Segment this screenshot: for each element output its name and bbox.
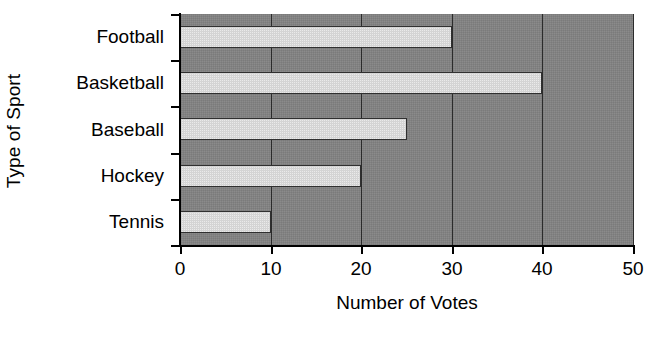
x-axis-tick-labels: 01020304050 xyxy=(0,258,646,284)
x-axis-tick xyxy=(271,245,273,254)
x-axis-tick-label: 40 xyxy=(531,258,552,280)
y-axis-line xyxy=(179,13,181,246)
x-axis-tick xyxy=(361,245,363,254)
y-axis-tick xyxy=(171,153,180,155)
y-axis-tick xyxy=(171,199,180,201)
y-axis-tick-label: Football xyxy=(30,14,172,60)
x-axis-line xyxy=(180,245,634,247)
bar-band xyxy=(180,153,633,199)
x-axis-tick xyxy=(542,245,544,254)
bar[interactable] xyxy=(180,26,452,48)
x-axis-tick-label: 10 xyxy=(260,258,281,280)
y-axis-tick xyxy=(171,106,180,108)
y-axis-tick xyxy=(171,14,180,16)
bars xyxy=(180,14,633,245)
y-axis-tick-label: Hockey xyxy=(30,153,172,199)
y-axis-tick-labels: Football Basketball Baseball Hockey Tenn… xyxy=(30,14,172,245)
bar-band xyxy=(180,14,633,60)
y-axis-tick xyxy=(171,60,180,62)
y-axis-title: Type of Sport xyxy=(0,0,28,262)
x-axis-tick xyxy=(633,245,635,254)
x-axis-tick-label: 50 xyxy=(622,258,643,280)
bar-band xyxy=(180,60,633,106)
x-axis-tick-label: 30 xyxy=(441,258,462,280)
bar-band xyxy=(180,106,633,152)
bar[interactable] xyxy=(180,118,407,140)
y-axis-tick-label: Basketball xyxy=(30,60,172,106)
bar[interactable] xyxy=(180,211,271,233)
x-axis-title: Number of Votes xyxy=(180,292,634,314)
plot-area xyxy=(180,14,633,245)
y-axis-title-text: Type of Sport xyxy=(3,74,25,188)
x-axis-tick xyxy=(180,245,182,254)
y-axis-tick xyxy=(171,245,180,247)
y-axis-tick-label: Baseball xyxy=(30,106,172,152)
bar[interactable] xyxy=(180,72,542,94)
x-axis-tick xyxy=(452,245,454,254)
bar-chart: Type of Sport Football Basketball Baseba… xyxy=(0,0,646,337)
bar-band xyxy=(180,199,633,245)
gridline xyxy=(633,14,634,245)
y-axis-tick-label: Tennis xyxy=(30,199,172,245)
bar[interactable] xyxy=(180,165,361,187)
x-axis-tick-label: 0 xyxy=(175,258,186,280)
x-axis-tick-label: 20 xyxy=(350,258,371,280)
